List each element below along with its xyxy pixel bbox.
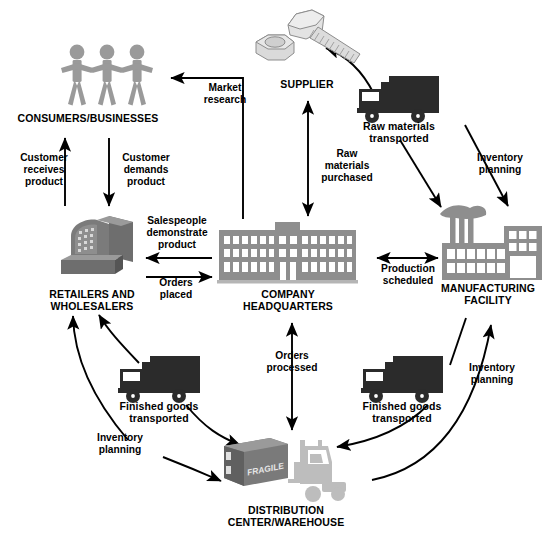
- node-label-company-headquarters: COMPANY HEADQUARTERS: [218, 288, 358, 312]
- node-label-consumers: CONSUMERS/BUSINESSES: [0, 112, 176, 124]
- edge-label-inventory-bottom-right: Inventory planning: [452, 362, 532, 386]
- edge-label-raw-materials-purchased: Raw materials purchased: [312, 148, 382, 185]
- factory-icon: [438, 200, 542, 280]
- edge-label-inventory-bottom-left: Inventory planning: [78, 432, 162, 456]
- office-building-icon: [215, 222, 360, 286]
- edge-label-customer-demands: Customer demands product: [110, 152, 182, 189]
- edge-truck-to-factory: [400, 140, 441, 207]
- edge-factory-to-truck-right: [450, 318, 466, 365]
- node-label-truck-finished-left: Finished goods transported: [98, 400, 220, 424]
- edge-label-salespeople: Salespeople demonstrate product: [134, 215, 220, 252]
- edge-label-market-research: Market research: [182, 82, 268, 106]
- edge-label-orders-processed: Orders processed: [255, 350, 329, 374]
- node-label-truck-raw-materials: Raw materials transported: [338, 120, 460, 144]
- forklift-and-crate-icon: FRAGILE: [222, 432, 350, 504]
- node-label-retailers-wholesalers: RETAILERS AND WHOLESALERS: [22, 288, 162, 312]
- three-people-icon: [58, 42, 176, 108]
- supply-chain-diagram: CONSUMERS/BUSINESSES: [0, 0, 548, 543]
- edge-label-inventory-top-right: Inventory planning: [460, 152, 540, 176]
- bolt-and-nut-icon: [248, 6, 370, 78]
- node-label-distribution-center: DISTRIBUTION CENTER/WAREHOUSE: [196, 504, 376, 528]
- edge-label-orders-placed: Orders placed: [145, 277, 207, 301]
- retail-store-icon: [57, 214, 143, 282]
- edge-inventory-bottom-left-feeder: [163, 457, 221, 481]
- edge-label-customer-receives: Customer receives product: [10, 152, 78, 189]
- edge-label-production-scheduled: Production scheduled: [368, 263, 448, 287]
- node-label-truck-finished-right: Finished goods transported: [341, 400, 463, 424]
